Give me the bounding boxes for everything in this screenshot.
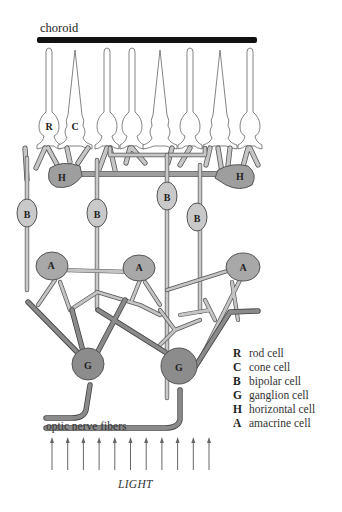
arrow-head-icon <box>129 437 133 443</box>
cone-cell <box>143 50 177 149</box>
arrow-head-icon <box>207 437 211 443</box>
legend-label: rod cell <box>249 346 284 360</box>
arrow-head-icon <box>66 437 70 443</box>
ganglion-cell-label: G <box>84 360 92 371</box>
legend-key: C <box>233 360 249 374</box>
horizontal-cell-label: H <box>58 172 66 183</box>
photoreceptor-layer: RC <box>37 48 262 149</box>
legend-item: Gganglion cell <box>233 388 315 402</box>
legend-key: H <box>233 402 249 416</box>
legend-label: horizontal cell <box>249 402 315 416</box>
choroid-label: choroid <box>40 21 78 36</box>
arrow-head-icon <box>176 437 180 443</box>
horizontal-cell-body <box>215 165 254 189</box>
rod-cell <box>120 48 144 149</box>
legend-key: R <box>233 346 249 360</box>
amacrine-cell-label: A <box>135 262 143 273</box>
light-arrows <box>50 437 211 470</box>
rod-cell <box>95 48 119 149</box>
arrow-head-icon <box>113 437 117 443</box>
legend-item: Bbipolar cell <box>233 374 315 388</box>
cone-cell <box>58 50 92 149</box>
legend-key: B <box>233 374 249 388</box>
bipolar-cell-label: B <box>94 209 101 220</box>
rod-cell <box>238 48 262 149</box>
legend: Rrod cell Ccone cell Bbipolar cell Ggang… <box>233 346 315 430</box>
arrow-head-icon <box>144 437 148 443</box>
arrow-head-icon <box>160 437 164 443</box>
ganglion-cell-label: G <box>175 362 183 373</box>
legend-label: bipolar cell <box>249 374 301 388</box>
bipolar-cell-label: B <box>24 209 31 220</box>
legend-key: A <box>233 416 249 430</box>
legend-item: Aamacrine cell <box>233 416 315 430</box>
arrow-head-icon <box>191 437 195 443</box>
choroid-bar <box>37 37 257 43</box>
amacrine-cell-label: A <box>239 262 247 273</box>
legend-key: G <box>233 388 249 402</box>
light-label: LIGHT <box>118 478 153 490</box>
arrow-head-icon <box>50 437 54 443</box>
rod-cell-label: R <box>45 121 53 132</box>
legend-item: Ccone cell <box>233 360 315 374</box>
optic-nerve-fibers-label: optic nerve fibers <box>46 420 126 432</box>
cone-cell-label: C <box>71 121 78 132</box>
horizontal-cell-label: H <box>236 171 244 182</box>
neural-processes <box>25 148 258 428</box>
legend-label: ganglion cell <box>249 388 309 402</box>
legend-label: amacrine cell <box>249 416 311 430</box>
arrow-head-icon <box>97 437 101 443</box>
rod-cell <box>178 48 202 149</box>
legend-item: Hhorizontal cell <box>233 402 315 416</box>
legend-label: cone cell <box>249 360 290 374</box>
bipolar-cell-label: B <box>194 213 201 224</box>
arrow-head-icon <box>81 437 85 443</box>
retina-diagram: RC <box>0 0 342 512</box>
legend-item: Rrod cell <box>233 346 315 360</box>
rod-cell <box>37 48 61 149</box>
bipolar-cell-label: B <box>164 192 171 203</box>
amacrine-cell-label: A <box>47 260 55 271</box>
cone-cell <box>203 50 237 149</box>
